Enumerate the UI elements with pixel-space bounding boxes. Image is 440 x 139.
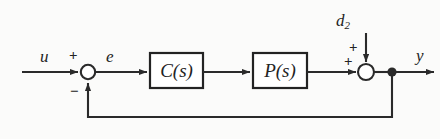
sign-output-junction-plant-positive: + (344, 54, 353, 69)
controller-label-arg: (s) (173, 60, 193, 81)
label-output-y: y (416, 47, 424, 64)
label-disturbance-subscript: 2 (345, 19, 351, 31)
block-controller-label: C(s) (160, 61, 193, 80)
label-disturbance-base: d (336, 11, 345, 30)
summing-junction-error (81, 65, 95, 79)
summing-junction-output (358, 64, 374, 80)
sign-error-junction-negative: − (70, 84, 79, 99)
block-plant-label: P(s) (264, 61, 296, 80)
block-plant-label-wrap: P(s) (253, 53, 307, 88)
block-controller-label-wrap: C(s) (150, 53, 203, 88)
plant-label-base: P (264, 60, 276, 81)
label-input-u: u (40, 48, 49, 65)
label-disturbance-d2: d2 (336, 12, 350, 29)
label-error-e: e (106, 48, 114, 65)
controller-label-base: C (160, 60, 173, 81)
sign-error-junction-positive: + (69, 48, 78, 63)
block-diagram: u e d2 y C(s) P(s) + − + + (0, 0, 440, 139)
diagram-canvas (0, 0, 440, 139)
plant-label-arg: (s) (276, 60, 296, 81)
